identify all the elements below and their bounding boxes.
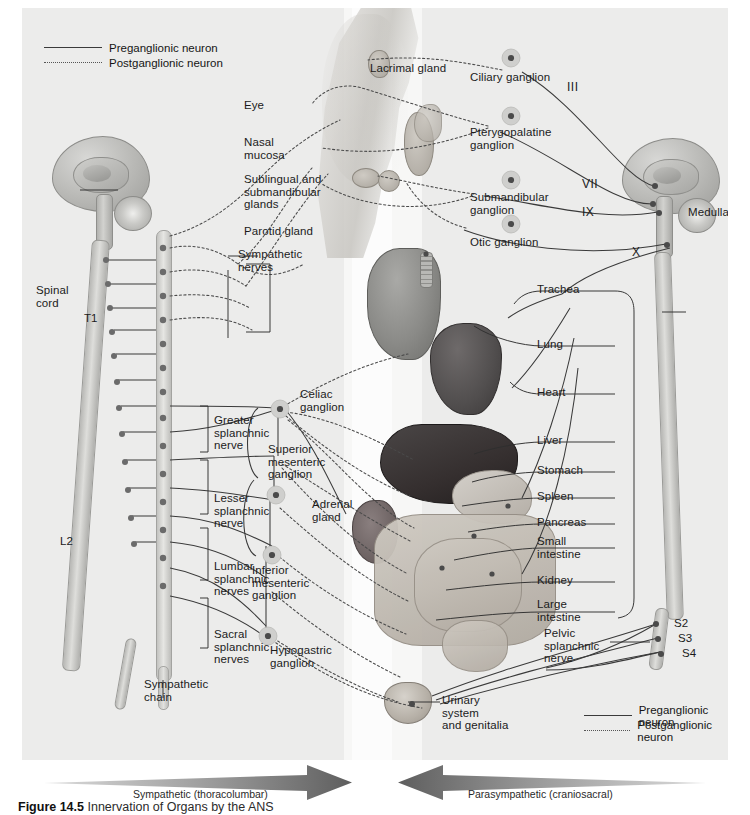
label-parotid-gland: Parotid gland: [244, 225, 313, 238]
label-spleen: Spleen: [537, 490, 573, 503]
label-sympathetic-chain: Sympathetic chain: [144, 678, 208, 703]
label-cranial-nerve-x: X: [632, 246, 641, 259]
label-submandibular-ganglion: Submandibular ganglion: [470, 191, 549, 216]
label-medulla: Medulla: [688, 206, 728, 219]
label-inferior-mesenteric-ganglion: Inferior mesenteric ganglion: [252, 564, 309, 602]
cord-root-dots: [103, 257, 137, 547]
label-lesser-splanchnic-nerve: Lesser splanchnic nerve: [214, 492, 269, 530]
chain-ganglia: [160, 245, 166, 589]
legend-top-postganglionic-row: Postganglionic neuron: [44, 55, 223, 70]
figure-caption: Figure 14.5 Innervation of Organs by the…: [18, 800, 738, 814]
label-cranial-nerve-vii: VII: [582, 178, 598, 191]
label-l2: L2: [60, 535, 73, 548]
parasympathetic-division-caption: Parasympathetic (craniosacral): [468, 788, 613, 800]
celiac-ganglion-marker: [271, 400, 289, 418]
legend-top-preganglionic-row: Preganglionic neuron: [44, 40, 223, 55]
ans-innervation-figure: Preganglionic neuron Postganglionic neur…: [0, 0, 750, 815]
label-ciliary-ganglion: Ciliary ganglion: [470, 71, 550, 84]
label-s2: S2: [674, 617, 688, 630]
label-urinary-system-genitalia: Urinary system and genitalia: [442, 694, 509, 732]
label-sacral-splanchnic-nerves: Sacral splanchnic nerves: [214, 628, 269, 666]
label-cranial-nerve-ix: IX: [582, 206, 594, 219]
label-s4: S4: [682, 647, 696, 660]
brainstem-nuclei-dots: [650, 183, 670, 248]
label-adrenal-gland: Adrenal gland: [312, 498, 352, 523]
label-pelvic-splanchnic-nerve: Pelvic splanchnic nerve: [544, 627, 599, 665]
label-hypogastric-ganglion: Hypogastric ganglion: [270, 644, 332, 669]
label-greater-splanchnic-nerve: Greater splanchnic nerve: [214, 414, 269, 452]
label-celiac-ganglion: Celiac ganglion: [300, 388, 344, 413]
label-sympathetic-nerves: Sympathetic nerves: [238, 248, 302, 273]
legend-top: Preganglionic neuron Postganglionic neur…: [44, 40, 223, 70]
label-eye: Eye: [244, 99, 264, 112]
label-t1: T1: [84, 312, 98, 325]
label-nasal-mucosa: Nasal mucosa: [244, 136, 285, 161]
neuron-pathway-overlay: [22, 8, 728, 760]
label-liver: Liver: [537, 434, 562, 447]
label-stomach: Stomach: [537, 464, 583, 477]
figure-caption-number: Figure 14.5: [18, 800, 84, 814]
label-kidney: Kidney: [537, 574, 573, 587]
label-cranial-nerve-iii: III: [567, 81, 579, 94]
pterygopalatine-ganglion-marker: [502, 107, 520, 125]
postganglionic-line-swatch: [44, 62, 102, 63]
postganglionic-line-swatch-2: [584, 730, 630, 731]
label-superior-mesenteric-ganglion: Superior mesenteric ganglion: [268, 443, 325, 481]
legend-bottom: Preganglionic neuron Postganglionic neur…: [584, 708, 728, 738]
label-pterygopalatine-ganglion: Pterygopalatine ganglion: [470, 126, 551, 151]
label-spinal-cord: Spinal cord: [36, 284, 69, 309]
label-otic-ganglion: Otic ganglion: [470, 236, 538, 249]
label-s3: S3: [678, 632, 692, 645]
division-arrow-svg: [0, 762, 750, 802]
label-sublingual-submandibular-glands: Sublingual and submandibular glands: [244, 173, 322, 211]
terminal-ganglion-dots: [409, 251, 511, 707]
legend-bottom-postganglionic-label: Postganglionic neuron: [637, 719, 728, 743]
label-pancreas: Pancreas: [537, 516, 586, 529]
submandibular-ganglion-marker: [502, 171, 520, 189]
division-arrows: Sympathetic (thoracolumbar) Parasympathe…: [0, 762, 750, 802]
legend-top-preganglionic-label: Preganglionic neuron: [109, 42, 218, 54]
label-heart: Heart: [537, 386, 566, 399]
ciliary-ganglion-marker: [502, 49, 520, 67]
legend-bottom-postganglionic-row: Postganglionic neuron: [584, 723, 728, 738]
label-lung: Lung: [537, 338, 563, 351]
preganglionic-line-swatch: [44, 47, 102, 48]
diagram-panel: Preganglionic neuron Postganglionic neur…: [22, 8, 728, 760]
label-trachea: Trachea: [537, 283, 579, 296]
label-lacrimal-gland: Lacrimal gland: [370, 62, 446, 75]
figure-caption-text: Innervation of Organs by the ANS: [87, 800, 273, 814]
label-large-intestine: Large intestine: [537, 598, 581, 623]
legend-top-postganglionic-label: Postganglionic neuron: [109, 57, 223, 69]
preganglionic-line-swatch-2: [584, 715, 632, 716]
sympathetic-division-caption: Sympathetic (thoracolumbar): [133, 788, 268, 800]
otic-ganglion-marker: [502, 215, 520, 233]
label-small-intestine: Small intestine: [537, 535, 581, 560]
superior-mesenteric-ganglion-marker: [267, 486, 285, 504]
